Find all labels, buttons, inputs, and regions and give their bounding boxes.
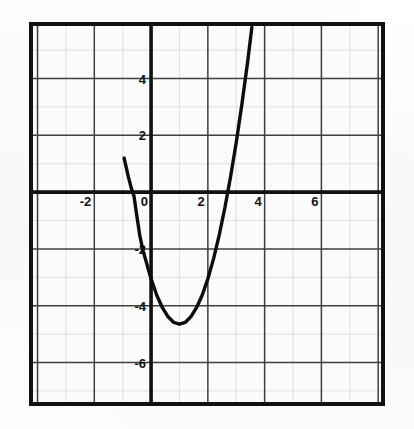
- y-tick-label: -6: [135, 356, 147, 371]
- x-tick-label: -2: [80, 194, 92, 209]
- coordinate-plane-svg: -20246 42-2-4-6: [0, 0, 414, 429]
- plot-background: [31, 24, 383, 404]
- x-tick-label: 6: [311, 194, 318, 209]
- graph-figure: -20246 42-2-4-6 y = 1.6(x - 1)^2 - 4.65: [0, 0, 414, 429]
- y-tick-label: -2: [135, 242, 147, 257]
- x-tick-label: 0: [141, 194, 148, 209]
- x-tick-label: 2: [198, 194, 205, 209]
- x-tick-label: 4: [254, 194, 262, 209]
- y-tick-label: 4: [139, 72, 147, 87]
- y-tick-label: -4: [135, 299, 147, 314]
- plot-area: -20246 42-2-4-6: [0, 0, 414, 429]
- y-tick-label: 2: [139, 128, 146, 143]
